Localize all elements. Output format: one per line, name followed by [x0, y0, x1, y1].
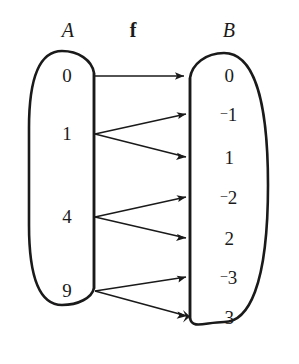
- digit: 1: [225, 147, 235, 168]
- set-a-ellipse: [29, 51, 94, 305]
- arrow-4-to-2: [95, 217, 186, 241]
- set-a-label: A: [48, 20, 88, 40]
- set-b-element-neg3: –3: [206, 268, 252, 287]
- set-a-element-4: 4: [44, 207, 90, 226]
- set-b-label: B: [209, 20, 249, 40]
- set-b-element-2: 2: [206, 229, 252, 248]
- minus-sign: –: [221, 104, 228, 119]
- set-a-element-1: 1: [44, 124, 90, 143]
- set-b-element-3: 3: [206, 308, 252, 327]
- arrow-1-to-1: [95, 134, 186, 160]
- arrow-1-to-neg1: [95, 112, 186, 134]
- digit: 1: [228, 104, 238, 125]
- set-b-element-neg2: –2: [206, 188, 252, 207]
- digit: 2: [228, 187, 238, 208]
- arrow-0-to-0: [95, 72, 184, 80]
- diagram-canvas: [0, 0, 299, 364]
- digit: 0: [225, 65, 235, 86]
- arrow-4-to-neg2: [95, 195, 186, 217]
- digit: 3: [228, 267, 238, 288]
- minus-sign: –: [221, 267, 228, 282]
- set-b-element-neg1: –1: [206, 105, 252, 124]
- mapping-diagram-figure: A f B 0 1 4 9 0 –1 1 –2 2 –3 3: [0, 0, 299, 364]
- relation-f-label: f: [118, 20, 148, 40]
- arrow-9-to-neg3: [95, 276, 186, 291]
- arrow-9-to-3: [95, 291, 190, 323]
- digit: 2: [225, 228, 235, 249]
- digit: 3: [225, 307, 235, 328]
- set-a-element-0: 0: [44, 66, 90, 85]
- set-b-element-1: 1: [206, 148, 252, 167]
- minus-sign: –: [221, 187, 228, 202]
- set-b-element-0: 0: [206, 66, 252, 85]
- set-a-element-9: 9: [44, 281, 90, 300]
